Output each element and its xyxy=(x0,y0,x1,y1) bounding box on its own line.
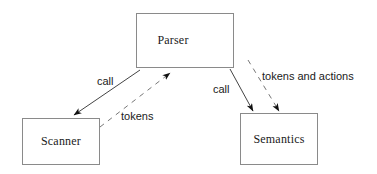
node-parser[interactable]: Parser xyxy=(136,13,234,68)
edge-label-call-left: call xyxy=(97,76,114,87)
node-parser-label: Parser xyxy=(157,33,188,48)
node-scanner-label: Scanner xyxy=(41,134,81,149)
node-semantics-label: Semantics xyxy=(253,132,304,147)
edge-label-tokens-left: tokens xyxy=(121,111,153,122)
diagram-canvas: Parser Scanner Semantics call tokens cal… xyxy=(0,0,377,174)
edge-label-tokens-and-actions: tokens and actions xyxy=(262,71,354,82)
edge-parser-to-semantics-call xyxy=(230,69,253,111)
node-scanner[interactable]: Scanner xyxy=(22,118,100,165)
edge-label-call-right: call xyxy=(213,84,230,95)
edge-parser-to-semantics-tokens-and-actions xyxy=(248,60,279,111)
node-semantics[interactable]: Semantics xyxy=(240,113,318,165)
